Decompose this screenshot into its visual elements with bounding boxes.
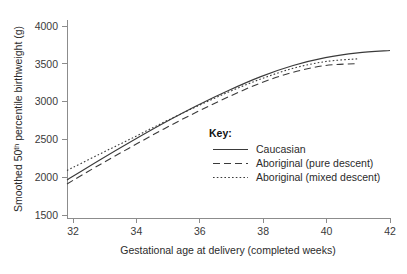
x-tick-label: 36 — [194, 225, 206, 237]
y-axis-ticks — [62, 26, 67, 215]
y-axis-title-prefix: Smoothed 50 — [12, 149, 24, 212]
x-tick-label: 38 — [257, 225, 269, 237]
y-tick-label: 3000 — [35, 95, 59, 107]
x-tick-label: 40 — [321, 225, 333, 237]
y-tick-label: 4000 — [35, 20, 59, 32]
x-tick-label: 42 — [384, 225, 396, 237]
y-axis-title: Smoothed 50th percentile birthweight (g) — [12, 26, 24, 212]
y-tick-label: 2500 — [35, 133, 59, 145]
y-axis-title-suffix: percentile birthweight (g) — [12, 26, 24, 144]
x-axis-ticks — [73, 218, 390, 223]
birthweight-line-chart: 4000 3500 3000 2500 2000 1500 32 34 36 3… — [0, 0, 407, 274]
y-tick-label: 2000 — [35, 171, 59, 183]
y-axis-tick-labels: 4000 3500 3000 2500 2000 1500 — [35, 20, 59, 221]
y-tick-label: 3500 — [35, 58, 59, 70]
legend: Key: Caucasian Aboriginal (pure descent)… — [209, 127, 380, 183]
x-axis-title: Gestational age at delivery (completed w… — [120, 244, 335, 256]
x-tick-label: 34 — [131, 225, 143, 237]
chart-canvas: 4000 3500 3000 2500 2000 1500 32 34 36 3… — [0, 0, 407, 274]
legend-label-aboriginal-mixed-descent: Aboriginal (mixed descent) — [256, 171, 380, 183]
x-tick-label: 32 — [67, 225, 79, 237]
x-axis-tick-labels: 32 34 36 38 40 42 — [67, 225, 396, 237]
legend-label-caucasian: Caucasian — [256, 143, 306, 155]
y-tick-label: 1500 — [35, 209, 59, 221]
legend-label-aboriginal-pure-descent: Aboriginal (pure descent) — [256, 157, 373, 169]
legend-title: Key: — [209, 127, 232, 139]
